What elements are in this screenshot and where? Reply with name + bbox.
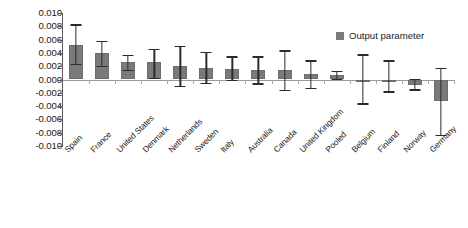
y-tick-label: -0.002: [16, 88, 62, 98]
y-axis-tick: [58, 93, 63, 94]
error-bar-cap-lower: [175, 86, 186, 87]
error-bar-cap-upper: [279, 50, 290, 51]
error-bar-cap-lower: [71, 64, 82, 65]
error-bar-cap-lower: [357, 103, 368, 104]
y-tick-label: 0.006: [16, 35, 62, 45]
error-bar-cap-upper: [97, 41, 108, 42]
x-axis-labels: SpainFranceUnited StatesDenmarkNetherlan…: [63, 148, 468, 228]
error-bar: [310, 60, 311, 88]
error-bar-cap-upper: [175, 46, 186, 47]
error-bar-cap-upper: [227, 56, 238, 57]
error-bar-cap-upper: [253, 56, 264, 57]
y-axis-labels: 0.0100.0080.0060.0040.0020.000-0.002-0.0…: [16, 8, 62, 148]
error-bar: [101, 41, 102, 66]
y-tick-label: 0.000: [16, 75, 62, 85]
error-bar-cap-upper: [71, 24, 82, 25]
error-bar: [128, 55, 129, 70]
y-axis-tick: [58, 53, 63, 54]
y-axis-tick: [58, 119, 63, 120]
error-bar: [206, 52, 207, 83]
legend-swatch-icon: [336, 32, 344, 40]
y-axis-tick: [58, 13, 63, 14]
error-bar-cap-lower: [149, 78, 160, 79]
error-bar-cap-upper: [201, 52, 212, 53]
error-bar: [440, 68, 441, 135]
error-bar-cap-upper: [357, 54, 368, 55]
error-bar-cap-lower: [279, 90, 290, 91]
y-tick-label: 0.010: [16, 8, 62, 18]
error-bar: [414, 79, 415, 90]
error-bar: [154, 49, 155, 78]
y-axis-tick: [58, 106, 63, 107]
error-bar-cap-upper: [305, 60, 316, 61]
error-bar: [75, 24, 76, 63]
error-bar-cap-upper: [149, 49, 160, 50]
y-axis-tick: [58, 80, 63, 81]
y-tick-label: 0.002: [16, 61, 62, 71]
error-bar-cap-upper: [123, 55, 134, 56]
bar-group[interactable]: [272, 13, 298, 146]
y-tick-label: -0.006: [16, 114, 62, 124]
chart-legend: Output parameter: [336, 31, 424, 41]
bar-group[interactable]: [89, 13, 115, 146]
y-axis-tick: [58, 26, 63, 27]
error-bar: [284, 50, 285, 90]
error-bar-cap-lower: [331, 79, 342, 80]
error-bar-cap-lower: [383, 91, 394, 92]
y-axis-tick: [58, 133, 63, 134]
error-bar: [258, 56, 259, 83]
error-bar-cap-upper: [331, 71, 342, 72]
error-bar: [180, 46, 181, 87]
error-bar-cap-upper: [409, 79, 420, 80]
y-tick-label: 0.004: [16, 48, 62, 58]
error-bar-cap-lower: [97, 66, 108, 67]
error-bar-cap-lower: [201, 83, 212, 84]
error-bar-cap-lower: [253, 83, 264, 84]
legend-label: Output parameter: [349, 31, 424, 41]
error-bar-cap-lower: [305, 88, 316, 89]
y-axis-tick: [58, 40, 63, 41]
error-bar-cap-lower: [409, 89, 420, 90]
x-axis-tick: [454, 80, 455, 84]
error-bar-cap-upper: [383, 60, 394, 61]
error-bar: [388, 60, 389, 91]
y-tick-label: -0.010: [16, 141, 62, 151]
bar-chart: 0.0100.0080.0060.0040.0020.000-0.002-0.0…: [0, 0, 468, 228]
error-bar-cap-upper: [435, 68, 446, 69]
y-tick-label: 0.008: [16, 21, 62, 31]
y-axis-tick: [58, 66, 63, 67]
y-tick-label: -0.004: [16, 101, 62, 111]
bar-group[interactable]: [219, 13, 245, 146]
error-bar-cap-lower: [123, 70, 134, 71]
y-axis-tick: [58, 146, 63, 147]
y-tick-label: -0.008: [16, 128, 62, 138]
error-bar: [232, 56, 233, 80]
error-bar-cap-lower: [227, 80, 238, 81]
bar-group[interactable]: [63, 13, 89, 146]
error-bar: [362, 54, 363, 103]
